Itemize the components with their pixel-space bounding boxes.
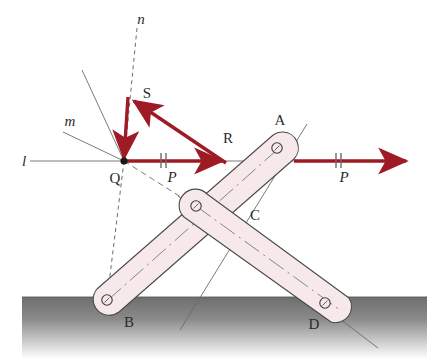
label-force-p-right: P — [338, 169, 348, 185]
ground-surface — [22, 297, 427, 359]
label-point-q: Q — [110, 170, 121, 186]
label-joint-a: A — [275, 112, 286, 128]
vector-s[interactable] — [124, 97, 128, 158]
vector-p-right[interactable] — [294, 153, 406, 168]
joint-c-pin[interactable] — [191, 201, 201, 211]
label-line-l: l — [22, 153, 26, 169]
label-joint-b: B — [124, 314, 134, 330]
mechanism-diagram: l m n Q S R P P A B C D — [0, 0, 427, 359]
vector-r[interactable] — [134, 101, 226, 163]
label-line-n: n — [137, 11, 145, 27]
label-point-s: S — [143, 85, 151, 101]
label-force-p-left: P — [166, 169, 176, 185]
label-joint-d: D — [309, 316, 320, 332]
point-q-marker — [120, 157, 127, 164]
vector-p-left[interactable] — [124, 153, 222, 168]
figure-root: l m n Q S R P P A B C D — [0, 0, 427, 359]
label-line-m: m — [65, 113, 76, 129]
label-point-r: R — [223, 130, 233, 146]
joint-a-pin[interactable] — [272, 143, 282, 153]
label-joint-c: C — [250, 207, 260, 223]
joint-b-pin[interactable] — [102, 295, 112, 305]
joint-d-pin[interactable] — [320, 298, 330, 308]
